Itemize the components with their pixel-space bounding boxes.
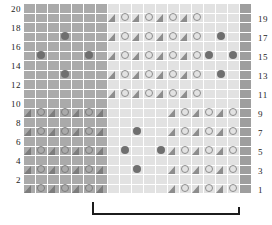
decrease-triangle-icon [48, 109, 55, 117]
decrease-triangle-icon [156, 33, 163, 41]
chart-cell-symbol [84, 50, 95, 61]
chart-cell [72, 42, 84, 52]
chart-cell [216, 42, 228, 52]
chart-cell [60, 185, 72, 195]
chart-cell [84, 185, 96, 195]
chart-cell [204, 33, 216, 43]
decrease-triangle-icon [96, 166, 103, 174]
chart-cell [24, 128, 36, 138]
decrease-triangle-icon [132, 90, 139, 98]
chart-cell-symbol [204, 107, 215, 118]
chart-cell [228, 61, 240, 71]
row-number-right: 13 [258, 72, 272, 81]
chart-cell-symbol [192, 31, 203, 42]
chart-cell-symbol [120, 88, 131, 99]
bobble-dot-icon [157, 146, 165, 154]
chart-cell [36, 4, 48, 14]
chart-cell [72, 61, 84, 71]
chart-cell [72, 166, 84, 176]
chart-cell-symbol [84, 126, 95, 137]
chart-cell-symbol [132, 31, 143, 42]
chart-cell [120, 14, 132, 24]
chart-cell-symbol [168, 107, 179, 118]
decrease-triangle-icon [156, 52, 163, 60]
chart-cell [24, 80, 36, 90]
chart-cell [192, 128, 204, 138]
row-number-right: 11 [258, 91, 272, 100]
chart-cell [96, 71, 108, 81]
decrease-triangle-icon [132, 33, 139, 41]
chart-cell [168, 185, 180, 195]
decrease-triangle-icon [24, 147, 31, 155]
chart-cell [168, 109, 180, 119]
chart-cell [144, 71, 156, 81]
chart-cell-symbol [192, 164, 203, 175]
yarn-over-circle-icon [61, 184, 69, 192]
chart-cell [240, 4, 252, 14]
chart-cell [84, 90, 96, 100]
chart-cell-symbol [96, 183, 107, 194]
yarn-over-circle-icon [37, 146, 45, 154]
chart-cell [156, 90, 168, 100]
chart-cell [96, 4, 108, 14]
yarn-over-circle-icon [145, 70, 153, 78]
chart-cell [144, 147, 156, 157]
chart-cell [240, 90, 252, 100]
chart-cell-symbol [108, 50, 119, 61]
chart-cell [36, 23, 48, 33]
chart-cell [72, 33, 84, 43]
chart-cell [84, 128, 96, 138]
chart-cell [24, 166, 36, 176]
yarn-over-circle-icon [85, 127, 93, 135]
chart-cell-symbol [168, 88, 179, 99]
chart-cell [156, 71, 168, 81]
chart-cell [36, 33, 48, 43]
chart-cell [132, 175, 144, 185]
chart-cell [60, 14, 72, 24]
chart-cell [216, 52, 228, 62]
chart-cell [60, 4, 72, 14]
chart-cell [240, 147, 252, 157]
decrease-triangle-icon [72, 109, 79, 117]
yarn-over-circle-icon [229, 146, 237, 154]
chart-cell [48, 80, 60, 90]
chart-cell-symbol [216, 145, 227, 156]
chart-cell [96, 166, 108, 176]
chart-cell-symbol [120, 69, 131, 80]
chart-cell-symbol [84, 164, 95, 175]
chart-cell [216, 80, 228, 90]
chart-cell [168, 14, 180, 24]
chart-cell [192, 185, 204, 195]
chart-cell [84, 14, 96, 24]
chart-cell-symbol [180, 145, 191, 156]
decrease-triangle-icon [216, 166, 223, 174]
stitch-chart: 2018161412108642191715131197531 [0, 0, 272, 225]
chart-cell-symbol [36, 145, 47, 156]
chart-cell [84, 23, 96, 33]
chart-cell [48, 33, 60, 43]
chart-cell [132, 99, 144, 109]
chart-cell [180, 109, 192, 119]
chart-cell [192, 33, 204, 43]
bobble-dot-icon [85, 51, 93, 59]
chart-cell-symbol [96, 145, 107, 156]
chart-cell-symbol [216, 107, 227, 118]
chart-cell-symbol [36, 126, 47, 137]
yarn-over-circle-icon [169, 70, 177, 78]
bracket-right-tick [238, 207, 240, 215]
chart-cell [96, 185, 108, 195]
chart-cell [60, 42, 72, 52]
chart-cell-symbol [228, 145, 239, 156]
chart-cell [96, 147, 108, 157]
chart-cell [228, 71, 240, 81]
chart-cell-symbol [192, 12, 203, 23]
chart-cell [108, 128, 120, 138]
chart-cell-symbol [96, 107, 107, 118]
decrease-triangle-icon [180, 90, 187, 98]
decrease-triangle-icon [24, 185, 31, 193]
chart-cell [216, 4, 228, 14]
chart-cell [144, 175, 156, 185]
chart-cell [108, 166, 120, 176]
chart-cell-symbol [72, 126, 83, 137]
decrease-triangle-icon [156, 90, 163, 98]
